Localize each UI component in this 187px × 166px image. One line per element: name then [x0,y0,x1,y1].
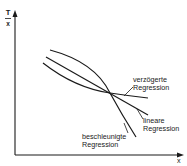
y-axis-label-denominator: x [4,20,12,28]
leader-verzoegerte [124,87,133,96]
label-beschleunigte-2: Regression [82,141,118,149]
y-axis-label-numerator: T [4,9,12,17]
y-axis-arrow-icon [13,10,18,17]
label-verzoegerte-2: Regression [133,84,169,92]
x-axis-label: x [177,157,181,165]
label-lineare-2: Regression [143,125,179,133]
curve-beschleunigte-regression [50,50,136,137]
